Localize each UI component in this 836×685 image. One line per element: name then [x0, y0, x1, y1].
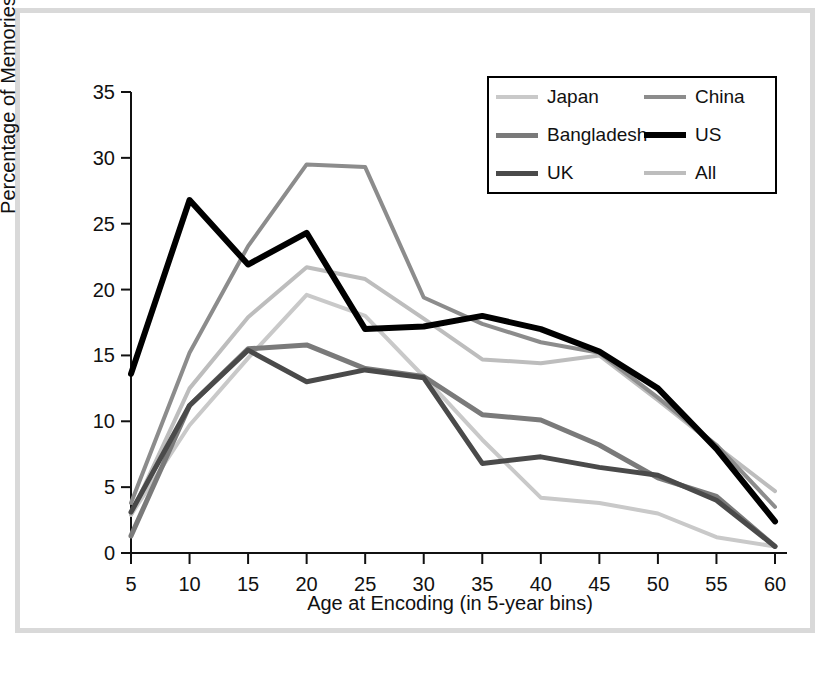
legend-label: All — [695, 162, 716, 184]
x-axis-label: Age at Encoding (in 5-year bins) — [180, 592, 720, 615]
series-line-all — [131, 267, 775, 515]
y-tick-label: 25 — [93, 213, 115, 235]
legend-grid: JapanChinaBangladeshUSUKAll — [489, 78, 775, 192]
y-tick-label: 5 — [104, 476, 115, 498]
x-tick-label: 5 — [125, 573, 136, 595]
legend-item-us[interactable]: US — [637, 124, 779, 146]
legend-swatch-us — [644, 132, 686, 138]
y-tick-label: 0 — [104, 542, 115, 564]
legend-swatch-all — [644, 171, 686, 175]
legend-label: US — [695, 124, 721, 146]
legend-label: China — [695, 86, 745, 108]
figure-container: 0510152025303551015202530354045505560 Pe… — [0, 0, 836, 685]
legend-item-bangladesh[interactable]: Bangladesh — [489, 124, 637, 146]
legend-label: UK — [547, 162, 573, 184]
legend-swatch-china — [644, 95, 686, 99]
legend-label: Japan — [547, 86, 599, 108]
legend-swatch-bangladesh — [496, 133, 538, 138]
y-tick-label: 20 — [93, 279, 115, 301]
legend-swatch-uk — [496, 171, 538, 176]
series-line-china — [131, 164, 775, 506]
legend-item-uk[interactable]: UK — [489, 162, 637, 184]
series-line-bangladesh — [131, 345, 775, 547]
legend-label: Bangladesh — [547, 124, 647, 146]
y-axis-ticks: 05101520253035 — [93, 81, 131, 564]
legend-item-all[interactable]: All — [637, 162, 779, 184]
x-tick-label: 60 — [764, 573, 786, 595]
y-tick-label: 30 — [93, 147, 115, 169]
chart-legend: JapanChinaBangladeshUSUKAll — [487, 76, 777, 194]
legend-swatch-japan — [496, 95, 538, 99]
x-axis-ticks: 51015202530354045505560 — [125, 553, 786, 595]
y-tick-label: 10 — [93, 410, 115, 432]
legend-item-japan[interactable]: Japan — [489, 86, 637, 108]
y-tick-label: 35 — [93, 81, 115, 103]
legend-item-china[interactable]: China — [637, 86, 779, 108]
y-axis-label: Percentage of Memories — [0, 0, 20, 255]
series-line-us — [131, 200, 775, 521]
y-tick-label: 15 — [93, 344, 115, 366]
